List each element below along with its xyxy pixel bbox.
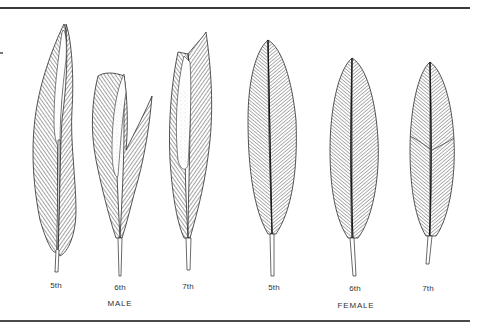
feather-label-male-7th: 7th: [182, 282, 194, 291]
feather-label-male-6th: 6th: [114, 283, 126, 292]
feather-male-6th: [92, 73, 152, 276]
feather-illustration: [0, 0, 478, 331]
feather-male-7th: [169, 32, 211, 270]
group-label-female: FEMALE: [338, 301, 375, 310]
group-label-male: MALE: [108, 299, 133, 308]
feather-female-7th: [410, 62, 454, 264]
feather-female-5th: [248, 40, 296, 276]
feather-label-female-6th: 6th: [349, 284, 361, 293]
bottom-rule: [0, 320, 470, 322]
feather-label-female-7th: 7th: [422, 284, 434, 293]
feather-label-female-5th: 5th: [268, 283, 280, 292]
feather-label-male-5th: 5th: [50, 281, 62, 290]
feather-male-5th: [33, 24, 76, 272]
feather-female-6th: [330, 58, 378, 276]
